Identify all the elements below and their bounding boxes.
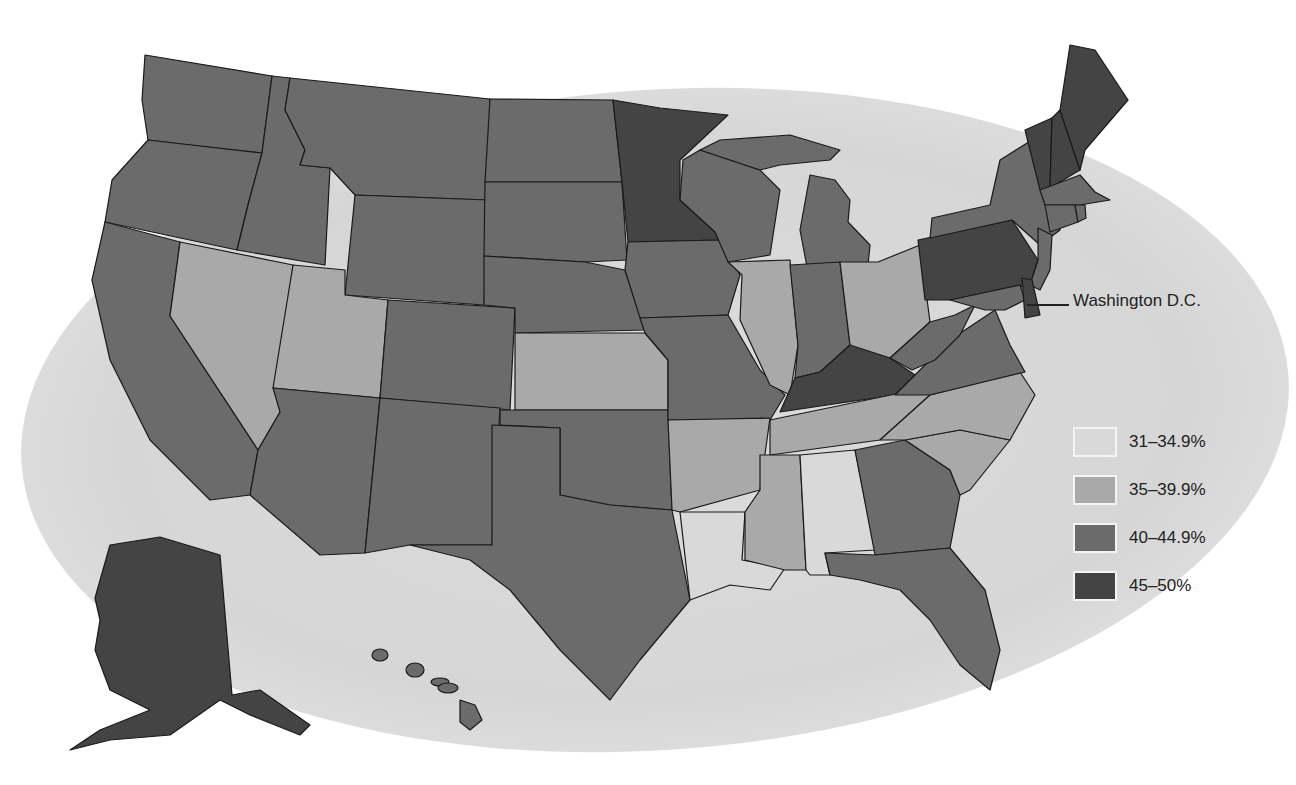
legend-swatch — [1073, 571, 1117, 601]
legend-item: 40–44.9% — [1073, 514, 1206, 562]
legend: 31–34.9% 35–39.9% 40–44.9% 45–50% — [1073, 418, 1206, 610]
legend-swatch — [1073, 475, 1117, 505]
legend-swatch — [1073, 427, 1117, 457]
state-south-dakota[interactable] — [484, 182, 627, 262]
state-alaska[interactable] — [70, 537, 310, 750]
state-north-dakota[interactable] — [485, 99, 622, 182]
legend-label: 45–50% — [1129, 576, 1191, 596]
state-washington[interactable] — [142, 55, 272, 153]
state-michigan-lower[interactable] — [800, 175, 870, 272]
legend-label: 35–39.9% — [1129, 480, 1206, 500]
dc-annotation: Washington D.C. — [1073, 291, 1201, 311]
legend-label: 31–34.9% — [1129, 432, 1206, 452]
us-choropleth-map — [0, 0, 1296, 785]
state-hawaii[interactable] — [372, 649, 482, 730]
state-new-mexico[interactable] — [365, 398, 500, 553]
legend-item: 31–34.9% — [1073, 418, 1206, 466]
state-wyoming[interactable] — [345, 195, 488, 305]
state-iowa[interactable] — [625, 240, 740, 318]
legend-item: 45–50% — [1073, 562, 1206, 610]
dc-leader-line — [1027, 304, 1069, 306]
state-connecticut[interactable] — [1045, 205, 1078, 232]
legend-label: 40–44.9% — [1129, 528, 1206, 548]
legend-swatch — [1073, 523, 1117, 553]
state-kansas[interactable] — [515, 333, 668, 410]
state-colorado[interactable] — [380, 300, 515, 410]
legend-item: 35–39.9% — [1073, 466, 1206, 514]
state-florida[interactable] — [825, 548, 1000, 690]
